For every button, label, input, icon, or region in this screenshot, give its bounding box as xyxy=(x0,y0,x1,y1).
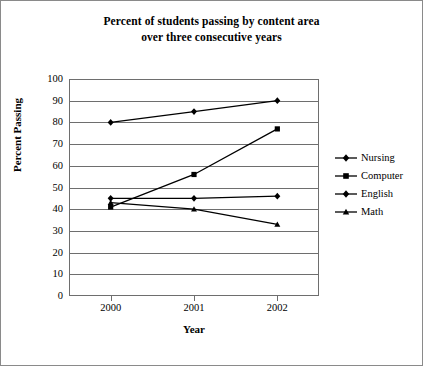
legend-item-computer[interactable]: Computer xyxy=(333,167,421,185)
y-tick-label: 100 xyxy=(31,73,63,84)
y-tick-label: 20 xyxy=(31,247,63,258)
legend-marker-diamond-icon xyxy=(333,151,359,165)
plot-area xyxy=(69,79,319,296)
data-point-marker xyxy=(274,97,280,104)
x-tick xyxy=(111,296,112,301)
legend-marker-square-icon xyxy=(333,169,359,183)
series-math xyxy=(108,200,281,227)
y-axis-tick-labels: 1009080706050403020100 xyxy=(31,79,63,296)
y-tick-label: 50 xyxy=(31,182,63,193)
chart-title-line-1: Percent of students passing by content a… xyxy=(1,13,422,29)
x-tick xyxy=(277,296,278,301)
data-point-marker xyxy=(343,173,349,179)
y-tick-label: 10 xyxy=(31,268,63,279)
x-axis-tick-labels: 200020012002 xyxy=(69,302,319,318)
chart-title-line-2: over three consecutive years xyxy=(1,29,422,45)
data-point-marker xyxy=(108,119,114,126)
y-tick-label: 40 xyxy=(31,203,63,214)
data-point-marker xyxy=(108,204,113,209)
y-tick-label: 30 xyxy=(31,225,63,236)
x-tick-label: 2002 xyxy=(247,302,307,314)
data-point-marker xyxy=(274,193,280,200)
x-tick xyxy=(194,296,195,301)
legend-label: Computer xyxy=(359,170,403,182)
legend-label: Nursing xyxy=(359,152,395,164)
chart-title: Percent of students passing by content a… xyxy=(1,13,422,45)
legend-label: Math xyxy=(359,206,383,218)
data-point-marker xyxy=(275,126,280,131)
data-point-marker xyxy=(191,195,197,202)
x-axis-title: Year xyxy=(69,323,319,335)
x-tick-label: 2000 xyxy=(81,302,141,314)
data-point-marker xyxy=(343,154,349,161)
legend-item-nursing[interactable]: Nursing xyxy=(333,149,421,167)
series-lines xyxy=(69,79,319,296)
legend-item-english[interactable]: English xyxy=(333,185,421,203)
y-tick-label: 70 xyxy=(31,138,63,149)
legend-label: English xyxy=(359,188,393,200)
data-point-marker xyxy=(191,108,197,115)
y-tick-label: 0 xyxy=(31,290,63,301)
series-line xyxy=(111,203,278,225)
y-tick-label: 60 xyxy=(31,160,63,171)
y-axis-title: Percent Passing xyxy=(11,75,23,195)
data-point-marker xyxy=(191,172,196,177)
chart-legend: NursingComputerEnglishMath xyxy=(333,149,421,221)
y-tick-label: 90 xyxy=(31,95,63,106)
x-tick-label: 2001 xyxy=(164,302,224,314)
series-nursing xyxy=(108,97,281,125)
legend-marker-triangle-icon xyxy=(333,205,359,219)
chart-figure: Percent of students passing by content a… xyxy=(0,0,423,366)
legend-marker-diamond-icon xyxy=(333,187,359,201)
y-tick-label: 80 xyxy=(31,116,63,127)
data-point-marker xyxy=(343,190,349,197)
legend-item-math[interactable]: Math xyxy=(333,203,421,221)
series-english xyxy=(108,193,281,202)
